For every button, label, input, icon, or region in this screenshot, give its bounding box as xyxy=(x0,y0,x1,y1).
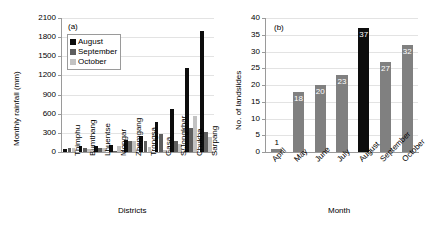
y-axis-line xyxy=(265,18,266,153)
x-axis-title: Districts xyxy=(118,206,146,215)
bar-september xyxy=(380,62,391,152)
x-axis-label-thimphu: Thimphu xyxy=(74,125,82,156)
bar-value-label-june: 20 xyxy=(315,88,326,96)
legend-label-october: October xyxy=(78,58,106,66)
figure-container: 03006009001200150018002100Monthly rainfa… xyxy=(0,0,445,228)
y-axis-tick-label: 1800 xyxy=(26,33,56,41)
x-axis-label-mongar: Mongar xyxy=(120,129,128,156)
bar-value-label-october: 32 xyxy=(402,48,413,56)
y-axis-tick-label: 1200 xyxy=(26,71,56,79)
panel-a-rainfall-chart: 03006009001200150018002100Monthly rainfa… xyxy=(0,0,228,228)
bar-july xyxy=(336,75,347,152)
plot-area-landslides: 1182023372732 xyxy=(266,18,418,152)
legend-item-october: October xyxy=(70,57,117,67)
panel-tag-b: (b) xyxy=(274,23,284,32)
gridline-y xyxy=(266,18,418,19)
legend-item-september: September xyxy=(70,47,117,57)
x-axis-label-trongsa: Trongsa xyxy=(150,127,158,156)
y-axis-tick-label: 2100 xyxy=(26,14,56,22)
y-axis-tick-label: 5 xyxy=(234,131,260,139)
legend-label-august: August xyxy=(78,38,103,46)
gridline-y xyxy=(266,35,418,36)
panel-tag-a: (a) xyxy=(68,22,78,31)
gridline-y xyxy=(62,95,214,96)
y-axis-tick-label: 600 xyxy=(26,110,56,118)
y-axis-tick-label: 1500 xyxy=(26,52,56,60)
legend-swatch-august xyxy=(70,39,76,45)
gridline-y xyxy=(62,75,214,76)
x-axis-label-lhuentse: Lhuentse xyxy=(104,123,112,156)
y-axis-tick-label: 40 xyxy=(234,14,260,22)
y-axis-tick-label: 900 xyxy=(26,91,56,99)
x-axis-label-bumthang: Bumthang xyxy=(89,120,97,156)
y-axis-tick-label: 300 xyxy=(26,129,56,137)
x-axis-label-gasa: Gasa xyxy=(165,137,173,156)
bar-august xyxy=(358,28,369,152)
x-axis-label-s-jongkhar: S/Jongkhar xyxy=(180,116,188,156)
gridline-y xyxy=(62,18,214,19)
y-axis-title: No. of landslides xyxy=(234,71,243,130)
y-axis-tick-label: 35 xyxy=(234,31,260,39)
legend-swatch-october xyxy=(70,59,76,65)
y-axis-title: Monthly rainfall (mm) xyxy=(12,71,21,146)
bar-value-label-july: 23 xyxy=(336,78,347,86)
y-axis-line xyxy=(61,18,62,153)
x-axis-title: Month xyxy=(328,206,350,215)
legend-rainfall: AugustSeptemberOctober xyxy=(67,34,121,70)
bar-value-label-may: 18 xyxy=(293,95,304,103)
panel-b-landslides-chart: 11820233727320510152025303540No. of land… xyxy=(228,0,445,228)
y-axis-tick-label: 0 xyxy=(26,148,56,156)
gridline-y xyxy=(266,52,418,53)
gridline-y xyxy=(266,68,418,69)
bar-value-label-august: 37 xyxy=(358,31,369,39)
legend-label-september: September xyxy=(78,48,117,56)
bar-value-label-september: 27 xyxy=(380,65,391,73)
x-axis-label-chukha: Chukha xyxy=(196,128,204,156)
legend-swatch-september xyxy=(70,49,76,55)
x-axis-label-sarpang: Sarpang xyxy=(211,126,219,156)
gridline-y xyxy=(62,114,214,115)
x-axis-label-zhemgang: Zhemgang xyxy=(135,118,143,156)
y-axis-tick-label: 0 xyxy=(234,148,260,156)
y-axis-tick-label: 30 xyxy=(234,48,260,56)
legend-item-august: August xyxy=(70,37,117,47)
